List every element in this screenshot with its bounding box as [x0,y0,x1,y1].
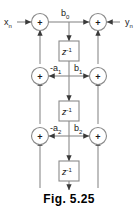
coeff-feedback-stage-1: -a1 [50,63,62,75]
input-label-xn: xn [4,17,12,29]
coeff-feedforward-stage-0: b0 [61,8,70,20]
coeff-feedforward-stage-2: b2 [74,123,83,135]
signal-flow-diagram: + + + + + + z-1 z-1 z-1 xn yn [0,0,138,213]
coeff-feedback-stage-2: -a2 [50,123,62,135]
delay-labels: z-1 z-1 z-1 [61,47,72,178]
figure-container: + + + + + + z-1 z-1 z-1 xn yn [0,0,138,213]
plus-right-stage-0: + [95,18,100,28]
output-label-yn: yn [125,17,133,29]
plus-right-stage-2: + [95,132,100,142]
plus-left-stage-1: + [37,72,42,82]
plus-right-stage-1: + [95,72,100,82]
plus-left-stage-0: + [37,18,42,28]
figure-caption: Fig. 5.25 [0,192,138,206]
coeff-feedforward-stage-1: b1 [74,63,83,75]
plus-left-stage-2: + [37,132,42,142]
